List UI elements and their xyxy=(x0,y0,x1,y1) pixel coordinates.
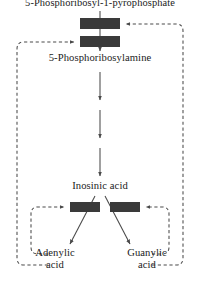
adenylic-acid-line-1: Adenylic xyxy=(35,247,75,258)
node-label-adenylic-acid: Adenylic acid xyxy=(12,247,98,271)
inhibition-bar-guanylic-branch xyxy=(110,202,140,212)
guanylic-acid-line-2: acid xyxy=(104,259,190,271)
feedback-adenylic-to-prpp-lower xyxy=(17,42,74,265)
node-label-guanylic-acid: Guanylic acid xyxy=(104,247,190,271)
adenylic-acid-line-2: acid xyxy=(12,259,98,271)
pathway-graphics xyxy=(0,0,200,282)
guanylic-acid-line-1: Guanylic xyxy=(127,247,167,258)
node-label-prpp: 5-Phosphoribosyl-1-pyrophosphate xyxy=(0,0,200,9)
inhibition-bar-prpp-lower xyxy=(80,36,120,47)
node-label-phosphoribosylamine: 5-Phosphoribosylamine xyxy=(0,52,200,64)
pathway-diagram: 5-Phosphoribosyl-1-pyrophosphate 5-Phosp… xyxy=(0,0,200,282)
node-label-inosinic-acid: Inosinic acid xyxy=(0,180,200,192)
inhibition-bar-adenylic-branch xyxy=(70,202,100,212)
inhibition-bar-prpp-upper xyxy=(80,18,120,29)
